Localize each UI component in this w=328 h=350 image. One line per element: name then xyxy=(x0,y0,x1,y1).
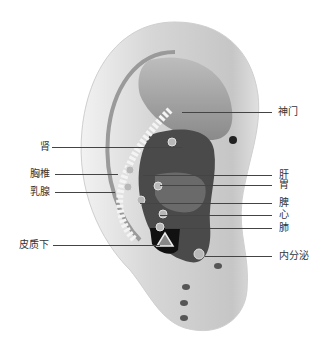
leader-line-xin xyxy=(160,215,272,216)
label-shen: 肾 xyxy=(40,141,50,153)
leader-line-pi xyxy=(140,203,272,204)
leader-line-shenmen xyxy=(182,112,272,113)
label-shenmen: 神门 xyxy=(278,106,298,118)
label-xiongzhui: 胸椎 xyxy=(30,168,50,180)
label-fei: 肺 xyxy=(279,222,289,234)
leader-line-rujian xyxy=(55,192,115,193)
label-pi: 脾 xyxy=(279,197,289,209)
label-wei: 胃 xyxy=(279,179,289,191)
label-pizhixia: 皮质下 xyxy=(19,239,49,251)
label-neifenmi: 内分泌 xyxy=(279,250,309,262)
leader-line-shen xyxy=(52,147,182,148)
leader-line-fei xyxy=(165,228,272,229)
leader-line-xiongzhui xyxy=(55,174,118,175)
leader-line-neifenmi xyxy=(205,256,272,257)
leader-line-wei xyxy=(160,185,272,186)
label-xin: 心 xyxy=(279,209,289,221)
label-rujian: 乳腺 xyxy=(30,186,50,198)
leader-line-pizhixia xyxy=(53,245,160,246)
leader-line-gan xyxy=(143,175,272,176)
ear-acupoint-diagram: 肾 胸椎 乳腺 皮质下 神门 肝 胃 脾 心 肺 内分泌 xyxy=(0,0,328,350)
